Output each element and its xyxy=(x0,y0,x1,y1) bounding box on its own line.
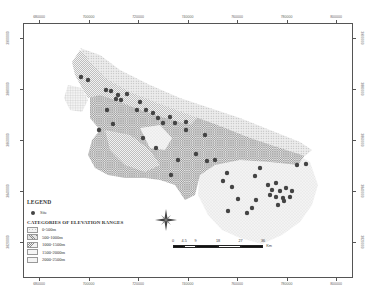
scale-bar-label: 4.5 xyxy=(182,239,187,243)
x-tick-label-bottom: 800000 xyxy=(330,282,342,286)
scale-bar-segment xyxy=(173,245,184,248)
legend: LEGEND Site CATEGORIES OF ELEVATION RANG… xyxy=(27,199,147,263)
scale-bar-label: 9 xyxy=(194,239,196,243)
scale-bar-unit: Km xyxy=(266,244,272,248)
legend-category-label: 2000-2500m xyxy=(42,257,65,262)
y-tick-mark xyxy=(20,89,23,90)
scale-bar-segment xyxy=(218,245,241,248)
x-tick-mark xyxy=(39,20,40,23)
x-tick-mark xyxy=(237,278,238,281)
y-tick-mark xyxy=(353,140,356,141)
y-tick-label-left: 3820000 xyxy=(6,235,10,249)
y-tick-mark xyxy=(20,242,23,243)
y-tick-mark xyxy=(20,38,23,39)
legend-category-label: 500-1000m xyxy=(42,235,63,240)
y-tick-label-right: 3860000 xyxy=(360,133,364,147)
x-tick-label-top: 700000 xyxy=(83,15,95,19)
swatch-500-1000m xyxy=(27,234,38,240)
legend-category: 2000-2500m xyxy=(27,257,147,263)
x-tick-label-bottom: 740000 xyxy=(182,282,194,286)
x-tick-mark xyxy=(138,278,139,281)
y-tick-mark xyxy=(20,191,23,192)
y-tick-label-left: 3860000 xyxy=(6,133,10,147)
x-tick-mark xyxy=(89,278,90,281)
legend-category: 500-1000m xyxy=(27,234,147,240)
x-tick-mark xyxy=(138,20,139,23)
y-tick-label-right: 3900000 xyxy=(360,31,364,45)
legend-categories-title: CATEGORIES OF ELEVATION RANGES xyxy=(27,220,147,225)
swatch-0-500m xyxy=(27,227,38,233)
legend-category: 0-500m xyxy=(27,227,147,233)
swatch-1500-2000m xyxy=(27,249,38,255)
legend-category-label: 1500-2000m xyxy=(42,250,65,255)
x-tick-label-top: 800000 xyxy=(330,15,342,19)
scale-bar-segment xyxy=(196,245,219,248)
y-tick-label-left: 3880000 xyxy=(6,82,10,96)
y-tick-label-right: 3820000 xyxy=(360,235,364,249)
x-tick-mark xyxy=(39,278,40,281)
x-tick-label-top: 780000 xyxy=(281,15,293,19)
x-tick-label-bottom: 700000 xyxy=(83,282,95,286)
scale-bar-label: 36 xyxy=(261,239,265,243)
x-tick-mark xyxy=(336,278,337,281)
scale-bar-segment xyxy=(184,245,195,248)
x-tick-label-top: 720000 xyxy=(132,15,144,19)
legend-category-label: 0-500m xyxy=(42,227,56,232)
x-tick-mark xyxy=(89,20,90,23)
scale-bar-label: 27 xyxy=(238,239,242,243)
x-tick-mark xyxy=(237,20,238,23)
swatch-2000-2500m xyxy=(27,257,38,263)
x-tick-label-top: 680000 xyxy=(33,15,45,19)
site-marker-icon xyxy=(31,211,35,215)
y-tick-mark xyxy=(353,242,356,243)
y-tick-mark xyxy=(353,38,356,39)
scale-bar-segment xyxy=(241,245,264,248)
legend-category: 1000-1500m xyxy=(27,242,147,248)
y-tick-mark xyxy=(20,140,23,141)
x-tick-label-top: 740000 xyxy=(182,15,194,19)
x-tick-mark xyxy=(188,278,189,281)
y-tick-label-left: 3900000 xyxy=(6,31,10,45)
legend-site-row: Site xyxy=(31,210,147,215)
legend-title: LEGEND xyxy=(27,199,147,205)
y-tick-label-left: 3840000 xyxy=(6,184,10,198)
x-tick-mark xyxy=(287,20,288,23)
x-tick-label-bottom: 720000 xyxy=(132,282,144,286)
legend-category: 1500-2000m xyxy=(27,249,147,255)
swatch-1000-1500m xyxy=(27,242,38,248)
y-tick-mark xyxy=(353,89,356,90)
y-tick-label-right: 3840000 xyxy=(360,184,364,198)
x-tick-label-top: 760000 xyxy=(231,15,243,19)
legend-site-label: Site xyxy=(40,210,47,215)
x-tick-label-bottom: 680000 xyxy=(33,282,45,286)
legend-category-label: 1000-1500m xyxy=(42,242,65,247)
x-tick-label-bottom: 780000 xyxy=(281,282,293,286)
x-tick-mark xyxy=(188,20,189,23)
y-tick-mark xyxy=(353,191,356,192)
scale-bar-label: 0 xyxy=(172,239,174,243)
x-tick-label-bottom: 760000 xyxy=(231,282,243,286)
scale-bar-label: 18 xyxy=(216,239,220,243)
y-tick-label-right: 3880000 xyxy=(360,82,364,96)
x-tick-mark xyxy=(336,20,337,23)
x-tick-mark xyxy=(287,278,288,281)
